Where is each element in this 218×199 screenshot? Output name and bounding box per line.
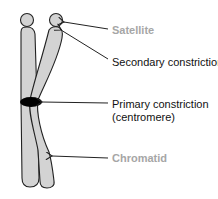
- satellite-label: Satellite: [112, 24, 154, 36]
- left-satellite: [21, 14, 34, 27]
- primary-constriction-pointer: [42, 102, 108, 103]
- right-satellite: [50, 14, 63, 27]
- secondary-constriction-label: Secondary constriction: [112, 56, 218, 68]
- chromatid-label: Chromatid: [112, 152, 167, 164]
- primary-constriction-label: Primary constriction: [112, 98, 209, 110]
- chromatid-pointer: [52, 156, 108, 158]
- centromere: [20, 97, 42, 107]
- centromere-label: (centromere): [112, 111, 175, 123]
- secondary-constriction-pointer: [61, 30, 108, 59]
- satellite-pointer: [64, 22, 108, 29]
